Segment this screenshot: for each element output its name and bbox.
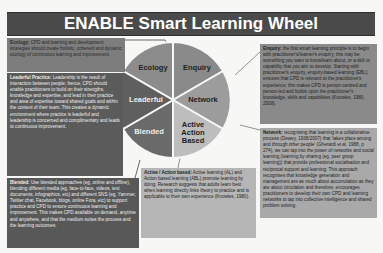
enquiry-description: Enquiry: the first smart learning princi… [260,44,377,124]
blended-connector [135,160,140,178]
segment-label-enquiry: Enquiry [178,64,216,72]
blended-description: Blended: Use blended approaches (eg, onl… [7,178,139,248]
active-connector [178,158,180,168]
blended-text: Use blended approaches (eg, online and o… [10,180,136,228]
leaderful-heading: Leaderful Practice: [10,75,51,80]
network-connector [240,125,260,130]
segment-label-leaderful: Leaderful [125,96,167,104]
network-text: recognising that learning is a collabora… [263,130,374,208]
leaderful-description: Leaderful Practice: Leadership is the re… [7,73,123,176]
segment-label-blended: Blended [130,128,168,136]
ecology-heading: Ecology: [10,40,29,45]
active-heading: Active / Action based: [144,170,192,175]
leaderful-text: Leadership is the result of interaction … [10,75,120,129]
active-description: Active / Action based: Active learning (… [141,168,256,238]
ecology-description: Ecology: CPD and learning and developmen… [7,38,125,72]
enquiry-text: the first smart learning principle is to… [263,46,370,106]
enquiry-connector [235,52,260,75]
segment-label-network: Network [184,96,222,104]
enquiry-heading: Enquiry: [263,46,282,51]
segment-label-ecology: Ecology [135,64,171,72]
network-description: Network: recognising that learning is a … [260,128,377,218]
blended-heading: Blended: [10,180,30,185]
segment-label-active: Active Action Based [178,121,208,145]
network-heading: Network: [263,130,283,135]
